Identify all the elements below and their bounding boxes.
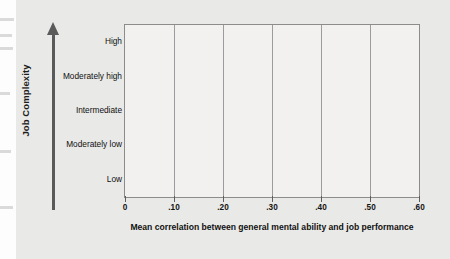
- x-axis-tick: [125, 196, 126, 202]
- bar[interactable]: [125, 134, 321, 156]
- x-axis-tick: [223, 196, 224, 202]
- x-axis-title: Mean correlation between general mental …: [124, 222, 420, 232]
- chart-figure: Job Complexity LowModerately lowIntermed…: [0, 0, 450, 259]
- x-axis-tick-label: .10: [168, 203, 179, 212]
- x-axis-tick: [419, 196, 420, 202]
- bar[interactable]: [125, 100, 375, 122]
- x-axis-tick-label: .40: [315, 203, 326, 212]
- y-axis-title: Job Complexity: [20, 46, 31, 156]
- y-axis-tick-label: High: [62, 36, 122, 46]
- scan-edge-artifact: [0, 0, 16, 259]
- x-axis-ticks: [124, 196, 420, 203]
- y-axis-tick-label: Moderately high: [62, 71, 122, 81]
- plot-area: [124, 24, 420, 198]
- y-axis-tick-labels: LowModerately lowIntermediateModerately …: [62, 24, 122, 196]
- x-axis-tick-label: .50: [364, 203, 375, 212]
- x-axis-tick-label: .30: [266, 203, 277, 212]
- y-axis-tick-label: Intermediate: [62, 105, 122, 115]
- x-axis-tick: [272, 196, 273, 202]
- x-axis-tick-label: .60: [413, 203, 424, 212]
- y-axis-arrow-icon: [47, 22, 60, 210]
- x-axis-tick-label: 0: [123, 203, 128, 212]
- y-axis-tick-label: Low: [62, 174, 122, 184]
- x-axis-tick: [370, 196, 371, 202]
- y-axis-tick-label: Moderately low: [62, 139, 122, 149]
- x-axis-tick-label: .20: [217, 203, 228, 212]
- bar[interactable]: [125, 169, 238, 191]
- x-axis-tick-labels: 0.10.20.30.40.50.60: [124, 203, 420, 217]
- bar[interactable]: [125, 31, 409, 53]
- x-axis-tick: [321, 196, 322, 202]
- bar[interactable]: [125, 66, 399, 88]
- x-axis-tick: [174, 196, 175, 202]
